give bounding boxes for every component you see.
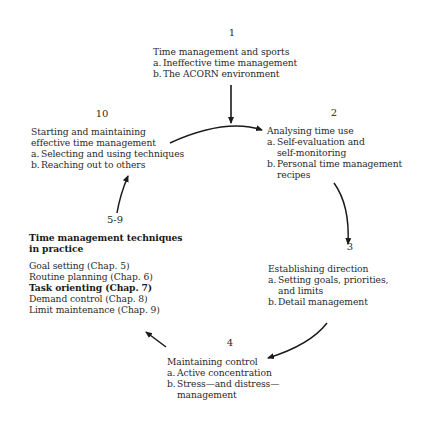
node-1-number: 1 <box>222 27 242 38</box>
node-5-9-title-2: in practice <box>29 243 182 254</box>
technique-demand-control: Demand control (Chap. 8) <box>29 293 182 304</box>
node-2-number: 2 <box>324 107 344 118</box>
node-3-title: Establishing direction <box>268 263 388 274</box>
node-4-item-b: b.Stress—and distress— <box>167 378 279 389</box>
node-10-item-a: a.Selecting and using techniques <box>31 148 184 159</box>
node-10-title-1: Starting and maintaining <box>31 126 184 137</box>
node-3-number: 3 <box>340 241 360 252</box>
node-2-item-a: a.Self-evaluation and <box>267 136 402 147</box>
arrow-4-to-5-9 <box>146 332 166 347</box>
technique-limit-maintenance: Limit maintenance (Chap. 9) <box>29 304 182 315</box>
node-3: Establishing direction a.Setting goals, … <box>268 263 388 307</box>
node-10: Starting and maintaining effective time … <box>31 126 184 170</box>
node-3-item-a: a.Setting goals, priorities, <box>268 274 388 285</box>
arrow-5-9-to-10 <box>117 176 128 213</box>
node-4-number: 4 <box>220 337 240 348</box>
node-2-item-a-cont: self-monitoring <box>267 147 402 158</box>
node-4-item-a: a.Active concentration <box>167 367 279 378</box>
node-2-title: Analysing time use <box>267 125 402 136</box>
arrow-2-to-3 <box>334 183 348 244</box>
node-3-item-a-cont: and limits <box>268 285 388 296</box>
technique-task-orienting: Task orienting (Chap. 7) <box>29 282 182 293</box>
node-4: Maintaining control a.Active concentrati… <box>167 356 279 400</box>
node-1: Time management and sports a.Ineffective… <box>153 46 297 79</box>
node-3-item-b: b.Detail management <box>268 296 388 307</box>
arrow-3-to-4 <box>268 323 327 358</box>
node-2: Analysing time use a.Self-evaluation and… <box>267 125 402 180</box>
node-5-9-number: 5-9 <box>100 214 130 225</box>
node-1-item-b: b.The ACORN environment <box>153 68 297 79</box>
node-10-title-2: effective time management <box>31 137 184 148</box>
node-5-9: Time management techniques in practice G… <box>29 232 182 315</box>
node-2-item-b: b.Personal time management <box>267 158 402 169</box>
node-4-title: Maintaining control <box>167 356 279 367</box>
node-4-item-b-cont: management <box>167 389 279 400</box>
node-1-title: Time management and sports <box>153 46 297 57</box>
node-10-number: 10 <box>90 108 114 119</box>
node-10-item-b: b.Reaching out to others <box>31 159 184 170</box>
node-5-9-title-1: Time management techniques <box>29 232 182 243</box>
technique-routine-planning: Routine planning (Chap. 6) <box>29 271 182 282</box>
node-2-item-b-cont: recipes <box>267 169 402 180</box>
technique-goal-setting: Goal setting (Chap. 5) <box>29 260 182 271</box>
node-1-item-a: a.Ineffective time management <box>153 57 297 68</box>
